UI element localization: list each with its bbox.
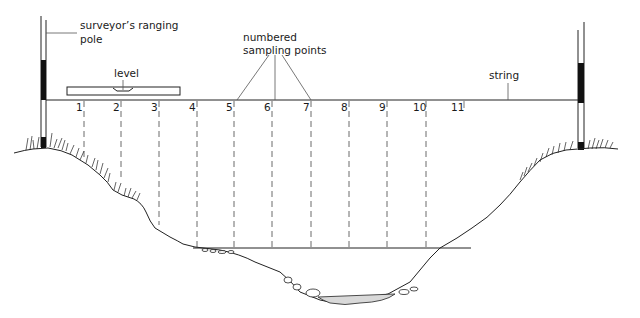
sampling-points-leader-lines	[237, 55, 311, 100]
sampling-point-number: 9	[379, 101, 386, 113]
sampling-points-label-line2: sampling points	[243, 44, 327, 56]
stream-water	[318, 294, 395, 305]
sampling-point-5: 5	[226, 101, 234, 247]
sampling-point-8: 8	[341, 101, 349, 247]
sampling-point-number: 5	[226, 101, 233, 113]
level-label: level	[114, 67, 139, 79]
pole-label-line1: surveyor’s ranging	[80, 19, 179, 31]
sampling-point-number: 1	[76, 101, 83, 113]
sampling-point-number: 3	[151, 101, 158, 113]
sampling-point-number: 11	[451, 101, 464, 113]
river-cross-section-diagram: surveyor’s ranging pole level numbered s…	[0, 0, 640, 318]
sampling-point-7: 7	[303, 101, 311, 247]
left-ranging-pole	[41, 16, 46, 148]
river-bank-profile	[14, 148, 618, 303]
sampling-point-number: 10	[413, 101, 426, 113]
sampling-point-number: 6	[264, 101, 271, 113]
sampling-point-6: 6	[264, 101, 272, 247]
sampling-point-9: 9	[379, 101, 387, 247]
sampling-point-4: 4	[189, 101, 197, 247]
sampling-point-number: 8	[341, 101, 348, 113]
sampling-point-11: 11	[451, 101, 464, 113]
sampling-point-number: 2	[113, 101, 120, 113]
sampling-points-label-line1: numbered	[243, 31, 297, 43]
sampling-point-1: 1	[76, 101, 84, 160]
sampling-point-number: 4	[189, 101, 196, 113]
string-label: string	[489, 69, 519, 81]
grass-right-bank	[520, 138, 613, 180]
sampling-point-3: 3	[151, 101, 159, 225]
sampling-point-2: 2	[113, 101, 121, 180]
pebbles	[202, 249, 418, 298]
sampling-point-10: 10	[413, 101, 426, 247]
spirit-level	[67, 80, 180, 95]
sampling-point-number: 7	[303, 101, 310, 113]
right-ranging-pole	[578, 22, 584, 150]
pole-label-line2: pole	[80, 33, 102, 45]
